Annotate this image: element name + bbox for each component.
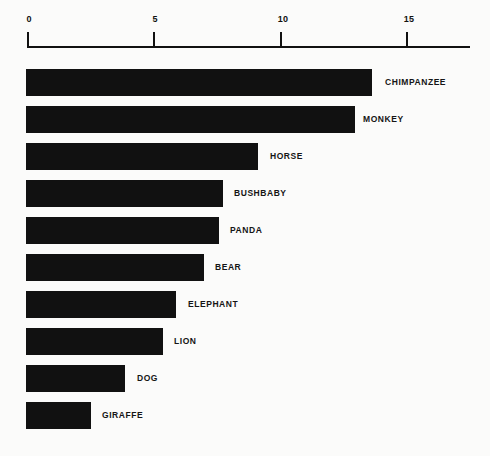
bar-lion bbox=[26, 328, 163, 355]
bar-label-monkey: MONKEY bbox=[363, 106, 404, 133]
bar-bushbaby bbox=[26, 180, 223, 207]
bar-label-chimpanzee: CHIMPANZEE bbox=[385, 69, 446, 96]
bar-row: BEAR bbox=[0, 254, 490, 281]
bar-chart: 0 5 10 15 CHIMPANZEE MONKEY HORSE BUSHBA… bbox=[0, 0, 490, 456]
x-axis: 0 5 10 15 bbox=[0, 0, 490, 56]
bar-label-elephant: ELEPHANT bbox=[188, 291, 238, 318]
bar-bear bbox=[26, 254, 204, 281]
bar-label-dog: DOG bbox=[137, 365, 158, 392]
bar-chimpanzee bbox=[26, 69, 372, 96]
bar-label-panda: PANDA bbox=[230, 217, 262, 244]
bar-dog bbox=[26, 365, 125, 392]
bar-row: GIRAFFE bbox=[0, 402, 490, 429]
plot-area: CHIMPANZEE MONKEY HORSE BUSHBABY PANDA B… bbox=[0, 56, 490, 456]
bar-row: MONKEY bbox=[0, 106, 490, 133]
bar-horse bbox=[26, 143, 258, 170]
bar-row: ELEPHANT bbox=[0, 291, 490, 318]
bar-row: PANDA bbox=[0, 217, 490, 244]
bar-monkey bbox=[26, 106, 355, 133]
bar-label-lion: LION bbox=[174, 328, 197, 355]
bar-elephant bbox=[26, 291, 176, 318]
bar-row: DOG bbox=[0, 365, 490, 392]
bar-label-bear: BEAR bbox=[215, 254, 241, 281]
x-tick-label-0: 0 bbox=[26, 14, 31, 24]
x-tick-10 bbox=[280, 32, 282, 48]
x-axis-line bbox=[27, 46, 470, 48]
bar-row: CHIMPANZEE bbox=[0, 69, 490, 96]
x-tick-label-10: 10 bbox=[278, 14, 288, 24]
x-tick-5 bbox=[153, 32, 155, 48]
bar-panda bbox=[26, 217, 219, 244]
x-tick-label-15: 15 bbox=[404, 14, 414, 24]
bar-label-bushbaby: BUSHBABY bbox=[234, 180, 287, 207]
bar-row: HORSE bbox=[0, 143, 490, 170]
bar-label-giraffe: GIRAFFE bbox=[102, 402, 143, 429]
x-tick-label-5: 5 bbox=[152, 14, 157, 24]
bar-label-horse: HORSE bbox=[270, 143, 303, 170]
x-tick-0 bbox=[27, 32, 29, 48]
x-tick-15 bbox=[406, 32, 408, 48]
bar-row: LION bbox=[0, 328, 490, 355]
bar-row: BUSHBABY bbox=[0, 180, 490, 207]
bar-giraffe bbox=[26, 402, 91, 429]
